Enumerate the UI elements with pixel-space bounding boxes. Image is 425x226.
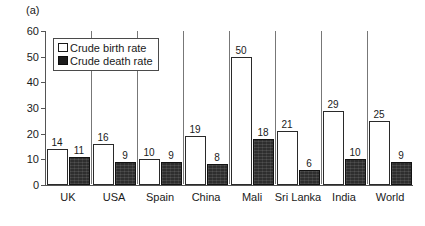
y-axis-tick-mark — [41, 134, 45, 135]
legend-item-crude-death-rate: Crude death rate — [58, 54, 153, 67]
bar-birth: 16 — [93, 144, 114, 185]
bar-birth: 21 — [277, 131, 298, 185]
y-axis-tick-label: 20 — [27, 128, 39, 139]
y-axis-tick-mark — [41, 185, 45, 186]
bar-value-label: 18 — [257, 128, 268, 138]
y-axis-tick-label: 10 — [27, 154, 39, 165]
category-label: Sri Lanka — [275, 191, 321, 203]
bar-value-label: 19 — [189, 125, 200, 135]
bar-death: 9 — [115, 162, 136, 185]
bar-value-label: 14 — [51, 138, 62, 148]
y-axis-tick-mark — [41, 31, 45, 32]
bar-value-label: 9 — [398, 151, 404, 161]
bar-value-label: 10 — [349, 148, 360, 158]
y-axis-tick-mark — [41, 108, 45, 109]
bar-value-label: 9 — [168, 151, 174, 161]
bar-value-label: 16 — [97, 133, 108, 143]
bar-death: 9 — [161, 162, 182, 185]
category-label: Spain — [146, 191, 174, 203]
bar-value-label: 21 — [281, 120, 292, 130]
bar-birth: 14 — [47, 149, 68, 185]
y-axis-tick-label: 30 — [27, 103, 39, 114]
legend-label-death: Crude death rate — [70, 55, 153, 67]
category-label: India — [332, 191, 356, 203]
legend-label-birth: Crude birth rate — [70, 42, 146, 54]
y-axis-tick-label: 50 — [27, 51, 39, 62]
y-axis-tick-mark — [41, 57, 45, 58]
y-axis-tick-label: 40 — [27, 77, 39, 88]
category-label: Mali — [242, 191, 262, 203]
bar-birth: 10 — [139, 159, 160, 185]
category-label: China — [192, 191, 221, 203]
legend-item-crude-birth-rate: Crude birth rate — [58, 41, 153, 54]
category-label: UK — [60, 191, 75, 203]
legend-swatch-birth-icon — [58, 43, 68, 52]
bar-value-label: 50 — [235, 46, 246, 56]
y-axis-tick-label: 60 — [27, 26, 39, 37]
bar-death: 9 — [391, 162, 412, 185]
bar-birth: 19 — [185, 136, 206, 185]
bar-death: 6 — [299, 170, 320, 185]
crude-birth-death-rate-chart: (a) 0102030405060 1411169109198501821629… — [0, 0, 425, 226]
bar-value-label: 6 — [306, 159, 312, 169]
bar-death: 18 — [253, 139, 274, 185]
bar-value-label: 8 — [214, 153, 220, 163]
category-label: USA — [103, 191, 126, 203]
bar-birth: 25 — [369, 121, 390, 185]
bar-value-label: 10 — [143, 148, 154, 158]
bar-value-label: 11 — [74, 146, 84, 156]
bar-birth: 29 — [323, 111, 344, 185]
bar-death: 11 — [69, 157, 90, 185]
y-axis-tick-mark — [41, 82, 45, 83]
bar-value-label: 25 — [373, 110, 384, 120]
bar-birth: 50 — [231, 57, 252, 185]
category-label: World — [376, 191, 405, 203]
bar-death: 10 — [345, 159, 366, 185]
legend-swatch-death-icon — [58, 56, 68, 65]
bar-value-label: 29 — [327, 100, 338, 110]
bar-death: 8 — [207, 164, 228, 185]
y-axis-tick-label: 0 — [33, 180, 39, 191]
y-axis-tick-mark — [41, 159, 45, 160]
panel-caption: (a) — [26, 4, 39, 16]
chart-legend: Crude birth rate Crude death rate — [53, 38, 159, 71]
bar-value-label: 9 — [122, 151, 128, 161]
x-axis-line — [45, 185, 413, 186]
